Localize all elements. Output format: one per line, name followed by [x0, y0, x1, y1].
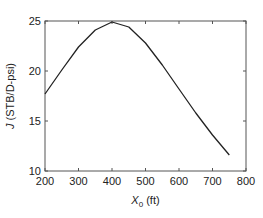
y-tick-label: 20 [29, 65, 41, 77]
x-tick-label: 200 [36, 175, 54, 187]
y-tick-label: 25 [29, 15, 41, 27]
x-axis-ticks: 200300400500600700800 [36, 21, 255, 187]
line-chart: 10152025 200300400500600700800 X0 (ft) J… [0, 0, 263, 218]
x-tick-label: 600 [170, 175, 188, 187]
y-axis-label: J (STB/D-psi) [4, 63, 16, 130]
x-tick-label: 300 [69, 175, 87, 187]
y-axis-ticks: 10152025 [29, 15, 246, 177]
x-tick-label: 800 [237, 175, 255, 187]
x-tick-label: 500 [136, 175, 154, 187]
x-tick-label: 700 [203, 175, 221, 187]
x-tick-label: 400 [103, 175, 121, 187]
x-axis-label: X0 (ft) [130, 194, 159, 209]
y-tick-label: 15 [29, 115, 41, 127]
series-line-J [45, 22, 229, 155]
